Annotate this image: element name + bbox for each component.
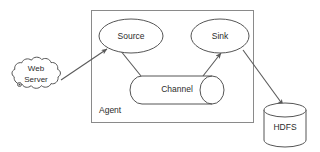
- edge-web-server-to-source: [61, 49, 107, 80]
- web-server-cloud-bubble-small: [19, 84, 21, 86]
- node-web-server[interactable]: Web Server: [12, 57, 60, 88]
- edge-channel-to-sink: [203, 53, 221, 76]
- hdfs-cylinder-top: [264, 103, 306, 117]
- web-server-label-line1: Web: [28, 64, 45, 73]
- web-server-label-line2: Server: [24, 75, 48, 84]
- diagram-canvas: Agent Web Server Source: [0, 0, 320, 152]
- node-source[interactable]: Source: [99, 19, 163, 53]
- sink-label: Sink: [212, 31, 229, 41]
- node-hdfs[interactable]: HDFS: [264, 103, 306, 147]
- flume-architecture-diagram: Agent Web Server Source: [0, 0, 320, 152]
- edge-source-to-channel: [120, 50, 141, 76]
- source-label: Source: [118, 31, 145, 41]
- edge-sink-to-hdfs: [243, 50, 283, 105]
- node-channel[interactable]: Channel: [130, 76, 224, 104]
- node-sink[interactable]: Sink: [191, 19, 249, 53]
- hdfs-label: HDFS: [273, 122, 296, 132]
- channel-label: Channel: [161, 84, 193, 94]
- agent-container-label: Agent: [99, 105, 122, 115]
